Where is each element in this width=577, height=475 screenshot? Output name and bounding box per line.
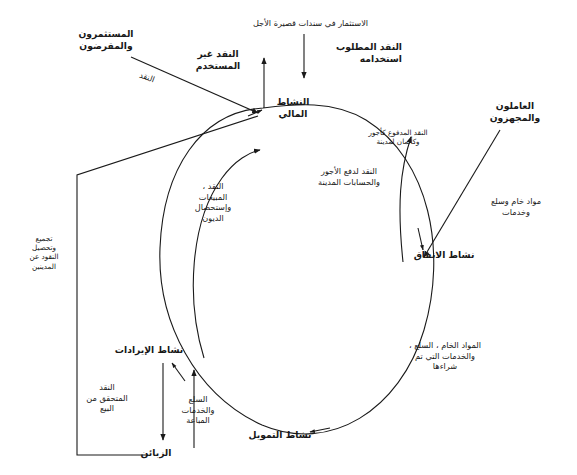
label-spending-activity: نشاط الانفاق xyxy=(412,249,476,261)
cash-to-pay-wages-arrow xyxy=(400,137,411,262)
label-cash-realized-from-sales: النقد المتحقق من البيع xyxy=(76,382,138,414)
label-cash-to-pay-wages: النقد لدفع الأجور والحسابات المدينة xyxy=(300,166,398,187)
label-raw-materials-goods-services: مواد خام وسلع وخدمات xyxy=(470,196,562,217)
outer-cycle-path xyxy=(160,105,434,434)
spending-node-arrowhead xyxy=(418,228,423,250)
label-unused-cash: النقد غير المستخدم xyxy=(186,48,250,72)
label-cash-paid-wages-short: النقد المدفوع كأجور وكأثمان لمدينة xyxy=(352,128,444,146)
revenue-node-arrowhead xyxy=(172,363,185,381)
label-financing-activity: نشاط التمويل xyxy=(246,429,314,441)
label-purchased-materials-goods-services: المواد الخام ، السلع ، والخدمات التي تم … xyxy=(392,340,498,372)
label-cash-sales-debt-collection: النقد ، المبيعات وإستحصال الديون xyxy=(184,181,242,223)
label-collection-from-debtors: تجميع وتحصيل النقود عن المدينين xyxy=(16,234,72,271)
label-financial-activity: النشاط المالي xyxy=(262,96,324,120)
label-short-term-investment: الاستثمار في سندات قصيرة الأجل xyxy=(228,18,393,29)
label-revenue-activity: نشاط الإيرادات xyxy=(114,344,184,356)
label-cash-required-for-use: النقد المطلوب استخدامه xyxy=(312,41,402,65)
label-goods-services-sold: السلع والخدمات المباعة xyxy=(168,394,228,426)
label-investors-lenders: المستثمرون والمقرضون xyxy=(64,28,148,52)
label-workers-suppliers: العاملون والمجهزون xyxy=(472,100,558,124)
label-customers: الزبائن xyxy=(130,447,182,459)
cash-flow-diagram: الاستثمار في سندات قصيرة الأجل النقد الم… xyxy=(0,0,577,475)
materials-supply-arrow xyxy=(424,130,500,257)
financial-node-arrowhead xyxy=(248,110,262,116)
